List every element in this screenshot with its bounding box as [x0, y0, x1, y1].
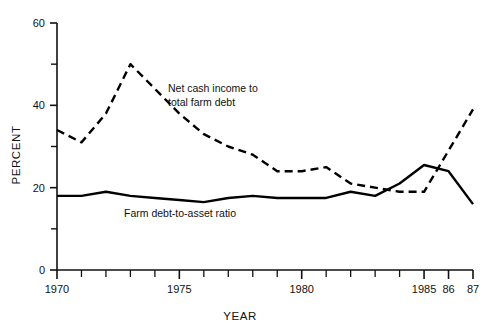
series-line-net-cash-income: [57, 64, 473, 192]
chart-container: 0204060 19701975198019858687 Net cash in…: [0, 0, 487, 329]
x-axis-tick-label: 87: [467, 283, 479, 295]
x-axis-tick-label: 1970: [45, 283, 69, 295]
x-axis-tick-label: 1975: [167, 283, 191, 295]
x-axis-tick-label: 86: [442, 283, 454, 295]
farm-debt-to-asset-label: Farm debt-to-asset ratio: [124, 207, 236, 219]
y-axis-tick-label: 40: [33, 99, 45, 111]
y-axis: 0204060: [33, 17, 57, 276]
series-line-debt-to-asset: [57, 165, 473, 204]
series-annotations: Net cash income tototal farm debtFarm de…: [124, 82, 258, 219]
y-axis-title: PERCENT: [10, 125, 22, 184]
x-axis-tick-label: 1980: [289, 283, 313, 295]
y-axis-tick-label: 0: [39, 264, 45, 276]
series-lines: [57, 64, 473, 204]
net-cash-income-label-line1: Net cash income to: [168, 82, 258, 94]
x-axis: 19701975198019858687: [45, 270, 479, 295]
line-chart: 0204060 19701975198019858687 Net cash in…: [0, 0, 487, 329]
x-axis-tick-label: 1985: [412, 283, 436, 295]
x-axis-title: YEAR: [223, 310, 257, 322]
y-axis-tick-label: 60: [33, 17, 45, 29]
y-axis-tick-label: 20: [33, 182, 45, 194]
net-cash-income-label-line2: total farm debt: [168, 96, 235, 108]
